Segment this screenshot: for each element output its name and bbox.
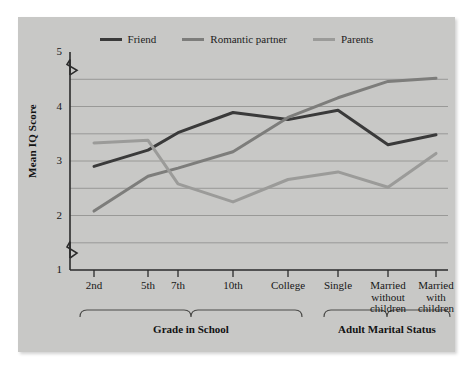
x-tick-label-line: children xyxy=(396,303,471,315)
series-lines-group xyxy=(94,78,436,211)
group-bracket-0 xyxy=(80,310,302,317)
y-tick-label-2: 2 xyxy=(48,209,62,221)
series-line-romantic-partner xyxy=(94,78,436,211)
series-line-friend xyxy=(94,110,436,166)
chart-panel: Friend Romantic partner Parents 54321 Me… xyxy=(18,17,455,352)
y-tick-label-1: 1 xyxy=(48,263,62,275)
x-tick-label-7: Marriedwithchildren xyxy=(396,280,471,315)
x-tick-marks-group xyxy=(94,270,436,277)
x-tick-label-line: Married xyxy=(396,280,471,292)
y-tick-label-3: 3 xyxy=(48,154,62,166)
gridlines-group xyxy=(70,79,448,243)
y-tick-label-4: 4 xyxy=(48,100,62,112)
y-tick-label-5: 5 xyxy=(48,45,62,57)
figure-canvas: Friend Romantic partner Parents 54321 Me… xyxy=(0,0,471,369)
group-label-0: Grade in School xyxy=(101,323,281,335)
y-axis-title: Mean IQ Score xyxy=(26,91,38,191)
group-label-1: Adult Marital Status xyxy=(297,323,471,335)
